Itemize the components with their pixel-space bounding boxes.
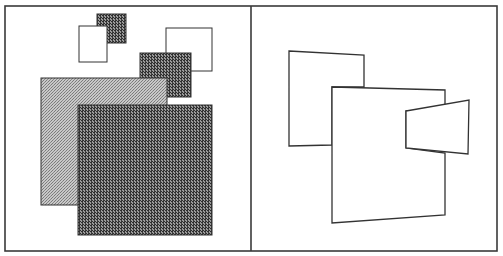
figure-canvas xyxy=(0,0,503,256)
square-dark-large xyxy=(78,105,212,235)
square-white-small-left xyxy=(79,26,107,62)
